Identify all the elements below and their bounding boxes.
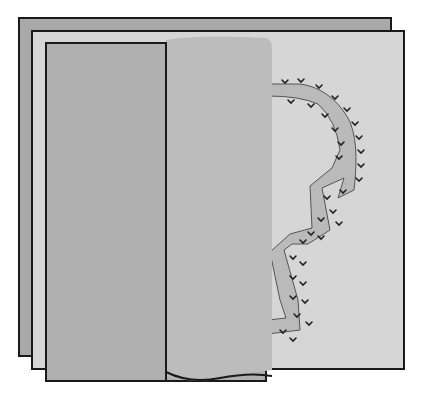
layered-seam-diagram: [0, 0, 430, 401]
folded-flap: [166, 36, 272, 380]
